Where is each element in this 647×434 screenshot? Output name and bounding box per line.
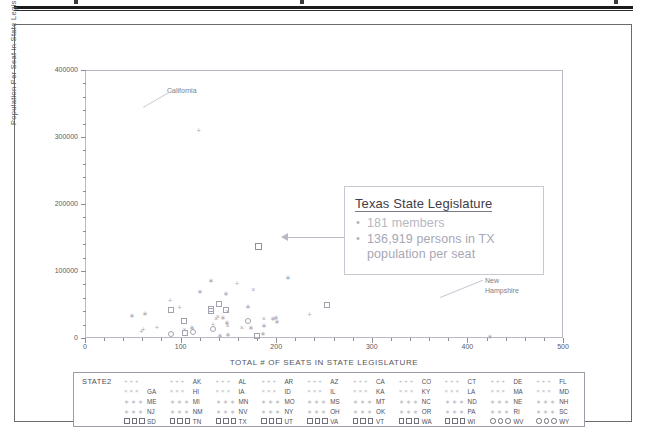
y-minor-tick bbox=[83, 258, 86, 259]
star-icon: ∗ bbox=[445, 408, 450, 415]
legend-symbol-group: +++ bbox=[307, 378, 329, 384]
cross-icon: × bbox=[359, 388, 363, 394]
legend-symbol-group bbox=[307, 418, 329, 424]
legend-state-abbr: SC bbox=[558, 408, 568, 415]
cross-icon: × bbox=[307, 388, 311, 394]
legend-symbol-group bbox=[536, 418, 558, 424]
y-minor-tick bbox=[83, 231, 86, 232]
y-tick bbox=[81, 70, 86, 71]
legend-item-nv: ∗∗∗NV bbox=[216, 408, 262, 415]
star-icon: ∗ bbox=[459, 408, 464, 415]
x-tick-label: 200 bbox=[256, 343, 296, 350]
legend-state-abbr: NH bbox=[558, 398, 568, 405]
legend-item-mi: ∗∗∗MI bbox=[170, 398, 216, 405]
plus-icon: + bbox=[130, 378, 134, 384]
legend-state-abbr: MT bbox=[375, 398, 385, 405]
plus-icon: + bbox=[450, 378, 454, 384]
legend-item-nm: ∗∗∗NM bbox=[170, 408, 216, 415]
star-icon: ∗ bbox=[216, 398, 221, 405]
square-icon bbox=[307, 418, 313, 424]
star-icon: ∗ bbox=[223, 398, 228, 405]
square-icon bbox=[231, 418, 237, 424]
x-minor-tick bbox=[123, 338, 124, 341]
y-tick bbox=[81, 271, 86, 272]
legend-symbol-group: ××× bbox=[307, 388, 329, 394]
legend-symbol-group: ∗∗∗ bbox=[490, 408, 512, 415]
square-icon bbox=[132, 418, 138, 424]
legend-item-ia: ×××IA bbox=[216, 388, 262, 395]
legend-symbol-group: ∗∗∗ bbox=[170, 408, 192, 415]
callout-title: Texas State Legislature bbox=[355, 196, 492, 212]
legend-symbol-group: ∗∗∗ bbox=[445, 398, 467, 405]
legend-symbol-group: ××× bbox=[170, 388, 192, 394]
data-point-wy bbox=[168, 331, 174, 337]
legend-item-ar: +++AR bbox=[261, 378, 307, 385]
annotation-new-hampshire-line2: Hampshire bbox=[485, 287, 519, 294]
star-icon: ∗ bbox=[367, 398, 372, 405]
data-point-il: × bbox=[251, 286, 255, 293]
legend-state-abbr: MS bbox=[329, 398, 339, 405]
cross-icon: × bbox=[130, 388, 134, 394]
star-icon: ∗ bbox=[543, 408, 548, 415]
x-minor-tick bbox=[353, 338, 354, 341]
plus-icon: + bbox=[175, 378, 179, 384]
legend-state-abbr: CA bbox=[375, 378, 385, 385]
legend-symbol-group: ∗∗∗ bbox=[536, 398, 558, 405]
texas-callout-box[interactable]: Texas State Legislature • 181 members • … bbox=[344, 186, 544, 275]
legend-item-ma: ×××MA bbox=[490, 388, 536, 395]
callout-bullet-members: • 181 members bbox=[355, 216, 533, 232]
data-point-in: × bbox=[225, 308, 229, 315]
star-icon: ∗ bbox=[459, 398, 464, 405]
x-minor-tick bbox=[448, 338, 449, 341]
document-top-rule bbox=[14, 6, 633, 9]
legend-item-or: ∗∗∗OR bbox=[399, 408, 445, 415]
x-minor-tick bbox=[142, 338, 143, 341]
legend-state-abbr: CO bbox=[421, 378, 431, 385]
star-icon: ∗ bbox=[406, 398, 411, 405]
legend-item-nj: ∗∗∗NJ bbox=[124, 408, 170, 415]
y-minor-tick bbox=[83, 284, 86, 285]
star-icon: ∗ bbox=[268, 408, 273, 415]
star-icon: ∗ bbox=[360, 408, 365, 415]
legend-state-abbr: OK bbox=[375, 408, 385, 415]
circle-icon bbox=[505, 418, 511, 424]
star-icon: ∗ bbox=[230, 408, 235, 415]
data-point-ga: + bbox=[308, 311, 312, 318]
legend-state-abbr: ID bbox=[283, 388, 290, 395]
cross-icon: × bbox=[135, 388, 139, 394]
legend-state-abbr: NC bbox=[421, 398, 431, 405]
square-icon bbox=[406, 418, 412, 424]
x-tick-label: 100 bbox=[161, 343, 201, 350]
legend-row: SDTNTXUTVAVTWAWIWVWY bbox=[124, 416, 582, 426]
data-point-hi: + bbox=[155, 324, 159, 331]
star-icon: ∗ bbox=[353, 398, 358, 405]
cross-icon: × bbox=[456, 388, 460, 394]
legend-symbol-group: ∗∗∗ bbox=[124, 398, 146, 405]
legend-item-me: ∗∗∗ME bbox=[124, 398, 170, 405]
star-icon: ∗ bbox=[177, 398, 182, 405]
x-minor-tick bbox=[544, 338, 545, 341]
legend-item-az: +++AZ bbox=[307, 378, 353, 385]
x-minor-tick bbox=[391, 338, 392, 341]
data-point-mi: ∗ bbox=[223, 290, 229, 297]
legend-state-abbr: PA bbox=[467, 408, 476, 415]
square-icon bbox=[216, 418, 222, 424]
y-minor-tick bbox=[83, 311, 86, 312]
legend-state-abbr: MD bbox=[558, 388, 569, 395]
legend-symbol-group: ××× bbox=[261, 388, 283, 394]
legend-item-vt: VT bbox=[353, 418, 399, 425]
x-minor-tick bbox=[525, 338, 526, 341]
square-icon bbox=[353, 418, 359, 424]
data-point-tx bbox=[255, 243, 262, 250]
star-icon: ∗ bbox=[490, 398, 495, 405]
plus-icon: + bbox=[353, 378, 357, 384]
square-icon bbox=[414, 418, 420, 424]
data-point-ms: ∗ bbox=[248, 324, 254, 331]
cross-icon: × bbox=[445, 388, 449, 394]
y-minor-tick bbox=[83, 97, 86, 98]
legend-symbol-group: ××× bbox=[445, 388, 467, 394]
legend-item-mt: ∗∗∗MT bbox=[353, 398, 399, 405]
circle-icon bbox=[551, 418, 557, 424]
square-icon bbox=[399, 418, 405, 424]
star-icon: ∗ bbox=[399, 408, 404, 415]
